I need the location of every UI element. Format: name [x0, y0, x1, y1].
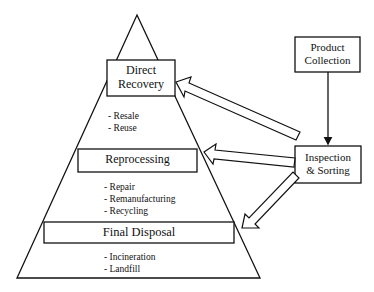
reverse-logistics-diagram: Direct Recovery - Resale - Reuse Reproce… — [0, 0, 374, 292]
product-collection-label: Product Collection — [295, 41, 360, 66]
list-item: - Incineration — [104, 252, 155, 264]
inspection-sorting-line2: & Sorting — [295, 164, 361, 177]
arrow-to-final-disposal — [242, 172, 299, 228]
list-item: - Reuse — [108, 123, 139, 135]
inspection-sorting-line1: Inspection — [295, 151, 361, 164]
direct-recovery-items: - Resale - Reuse — [108, 111, 139, 135]
list-item: - Resale — [108, 111, 139, 123]
direct-recovery-line2: Recovery — [107, 78, 175, 92]
final-disposal-items: - Incineration - Landfill — [104, 252, 155, 276]
list-item: - Remanufacturing — [104, 194, 176, 206]
inspection-sorting-label: Inspection & Sorting — [295, 151, 361, 176]
final-disposal-label: Final Disposal — [44, 225, 234, 239]
arrow-to-direct-recovery — [176, 77, 300, 140]
direct-recovery-line1: Direct — [107, 64, 175, 78]
product-collection-line1: Product — [295, 41, 360, 54]
product-collection-line2: Collection — [295, 54, 360, 67]
reprocessing-label: Reprocessing — [78, 153, 197, 167]
list-item: - Recycling — [104, 206, 176, 218]
arrow-to-reprocessing — [204, 144, 295, 167]
reprocessing-items: - Repair - Remanufacturing - Recycling — [104, 182, 176, 218]
direct-recovery-label: Direct Recovery — [107, 64, 175, 92]
list-item: - Repair — [104, 182, 176, 194]
list-item: - Landfill — [104, 264, 155, 276]
